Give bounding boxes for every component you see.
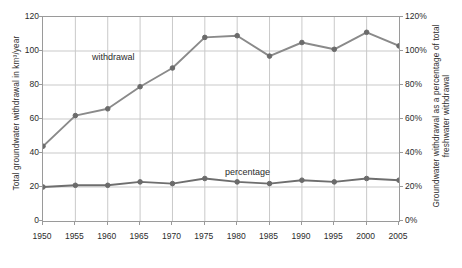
x-axis-tick-label: 1970 bbox=[162, 232, 181, 241]
series-label-withdrawal: withdrawal bbox=[92, 52, 135, 62]
series-label-percentage: percentage bbox=[225, 167, 270, 177]
x-axis-tick-label: 1985 bbox=[259, 232, 278, 241]
x-axis-tick-label: 2005 bbox=[389, 232, 408, 241]
x-axis-tick-label: 1995 bbox=[324, 232, 343, 241]
x-axis-tick-label: 2000 bbox=[356, 232, 375, 241]
plot-area bbox=[42, 16, 400, 222]
x-axis-tick-label: 1980 bbox=[227, 232, 246, 241]
plot-svg bbox=[43, 17, 399, 221]
x-axis-tick-label: 1990 bbox=[291, 232, 310, 241]
x-axis-tick-label: 1975 bbox=[194, 232, 213, 241]
x-axis-tick-label: 1960 bbox=[97, 232, 116, 241]
x-axis-tick-label: 1955 bbox=[65, 232, 84, 241]
chart-figure: Total groundwater withdrawal in km³/year… bbox=[0, 0, 462, 268]
x-axis-tick-label: 1950 bbox=[33, 232, 52, 241]
x-axis-tick-label: 1965 bbox=[130, 232, 149, 241]
